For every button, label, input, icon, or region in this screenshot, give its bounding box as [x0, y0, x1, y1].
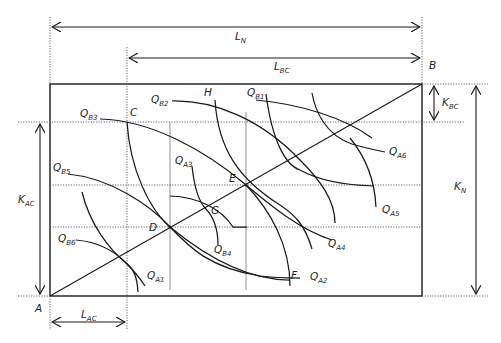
label-QB3: QB3 — [80, 107, 98, 122]
label-QA3: QA3 — [175, 154, 193, 169]
point-D-marker — [169, 226, 172, 229]
label-LAC: LAC — [81, 308, 97, 323]
label-QB5: QB5 — [53, 161, 71, 176]
label-QB2: QB2 — [151, 93, 169, 108]
label-KAC: KAC — [18, 193, 35, 208]
isoquant-QB3 — [100, 119, 332, 240]
point-E-label: E — [229, 172, 236, 184]
label-QA1: QA1 — [147, 269, 165, 284]
point-G-label: G — [211, 204, 219, 216]
point-F-label: F — [291, 269, 298, 281]
label-QA5: QA5 — [382, 203, 400, 218]
label-QB1: QB1 — [247, 86, 265, 101]
isoquant-QA6 — [312, 93, 385, 152]
point-E-marker — [245, 184, 248, 187]
label-QB6: QB6 — [58, 232, 76, 247]
isoquant-QA5 — [266, 94, 374, 186]
point-H-label: H — [204, 86, 212, 98]
isoquant-QB2 — [172, 101, 335, 223]
point-D-label: D — [149, 221, 157, 233]
label-QA4: QA4 — [328, 237, 346, 252]
label-KBC: KBC — [442, 96, 459, 111]
label-LN: LN — [235, 30, 247, 45]
label-QB4: QB4 — [214, 243, 232, 258]
point-A-label: A — [34, 302, 42, 314]
isoquant-QB5 — [68, 174, 300, 278]
isoquant-QA2-branch — [246, 185, 290, 286]
label-KN: KN — [454, 180, 467, 195]
point-B-label: B — [429, 59, 436, 71]
edgeworth-box-diagram: LN LBC LAC KN KBC KAC A B C D E F G H QB… — [0, 0, 501, 343]
diagonal-A-B — [50, 84, 422, 296]
label-QA2: QA2 — [310, 270, 328, 285]
label-QA6: QA6 — [389, 145, 407, 160]
label-LBC: LBC — [274, 60, 290, 75]
isoquant-QB1-branch — [350, 138, 376, 207]
point-C-label: C — [130, 106, 138, 118]
